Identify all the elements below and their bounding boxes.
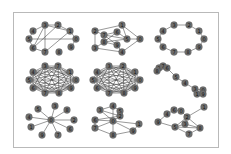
graph-5: 3210987654 — [90, 63, 144, 97]
node-label: 1 — [137, 121, 140, 127]
node-label: 0 — [179, 108, 182, 114]
node-label: 8 — [65, 107, 68, 113]
graph-4: 3710987654 — [26, 63, 80, 97]
node-label: 9 — [133, 85, 136, 91]
node-label: 5 — [91, 77, 94, 83]
node-label: 0 — [111, 118, 114, 124]
graph-edge — [113, 121, 139, 124]
node-label: 6 — [115, 29, 118, 35]
node-label: 6 — [172, 107, 175, 113]
node-label: 1 — [120, 22, 123, 28]
node-label: 3 — [43, 22, 46, 28]
node-label: 2 — [56, 22, 59, 28]
graph-9: 1604239587 — [155, 104, 208, 138]
node-label: 0 — [74, 36, 77, 42]
node-label: 9 — [40, 132, 43, 138]
node-label: 7 — [102, 32, 105, 38]
node-label: 5 — [174, 74, 177, 80]
graph-6: 2768543019 — [154, 63, 207, 98]
node-label: 6 — [68, 126, 71, 132]
node-label: 7 — [172, 49, 175, 55]
node-label: 7 — [56, 63, 59, 69]
node-label: 1 — [197, 28, 200, 34]
node-label: 6 — [93, 117, 96, 123]
node-label: 8 — [57, 49, 60, 55]
node-label: 4 — [161, 28, 164, 34]
node-label: 4 — [95, 69, 98, 75]
node-label: 5 — [173, 124, 176, 130]
node-label: 1 — [68, 28, 71, 34]
node-label: 1 — [29, 124, 32, 130]
node-label: 0 — [138, 36, 141, 42]
node-label: 4 — [183, 80, 186, 86]
graph-edge — [123, 66, 124, 93]
node-label: 4 — [111, 103, 114, 109]
node-label: 5 — [27, 36, 30, 42]
node-label: 4 — [31, 28, 34, 34]
node-label: 9 — [201, 91, 204, 97]
graph-edge — [95, 48, 122, 52]
node-label: 7 — [56, 132, 59, 138]
node-label: 2 — [121, 63, 124, 69]
node-label: 7 — [43, 90, 46, 96]
node-label: 2 — [93, 28, 96, 34]
graph-3: 3210987654 — [155, 22, 208, 56]
node-label: 5 — [125, 36, 128, 42]
graph-edge — [58, 66, 59, 93]
node-label: 4 — [120, 49, 123, 55]
node-label: 8 — [57, 90, 60, 96]
node-label: 8 — [198, 125, 201, 131]
node-label: 3 — [53, 103, 56, 109]
node-label: 3 — [183, 121, 186, 127]
node-label: 2 — [187, 22, 190, 28]
node-label: 8 — [122, 90, 125, 96]
node-label: 8 — [186, 49, 189, 55]
node-label: 0 — [138, 77, 141, 83]
node-label: 9 — [115, 42, 118, 48]
node-label: 2 — [118, 113, 121, 119]
node-label: 1 — [68, 69, 71, 75]
node-label: 6 — [165, 65, 168, 71]
node-label: 3 — [98, 107, 101, 113]
node-label: 6 — [95, 85, 98, 91]
node-label: 5 — [27, 77, 30, 83]
node-label: 3 — [43, 63, 46, 69]
node-label: 7 — [107, 90, 110, 96]
node-label: 6 — [31, 45, 34, 51]
graph-2: 1267508934 — [92, 22, 144, 56]
node-label: 2 — [72, 117, 75, 123]
node-label: 7 — [93, 125, 96, 131]
node-label: 3 — [93, 45, 96, 51]
node-label: 2 — [185, 114, 188, 120]
node-label: 3 — [172, 22, 175, 28]
node-label: 5 — [156, 36, 159, 42]
node-label: 8 — [111, 132, 114, 138]
node-label: 5 — [36, 106, 39, 112]
node-label: 1 — [195, 91, 198, 97]
node-label: 1 — [133, 69, 136, 75]
graph-7: 0358421697 — [26, 103, 78, 139]
network-graphs-canvas: 3210987654126750893432109876543710987654… — [0, 0, 231, 154]
node-label: 7 — [187, 131, 190, 137]
node-label: 4 — [27, 114, 30, 120]
graph-1: 3210987654 — [26, 22, 80, 56]
node-label: 0 — [49, 117, 52, 123]
node-label: 7 — [43, 49, 46, 55]
node-label: 1 — [202, 104, 205, 110]
node-label: 9 — [131, 128, 134, 134]
node-label: 4 — [165, 111, 168, 117]
node-label: 9 — [156, 119, 159, 125]
node-label: 4 — [31, 69, 34, 75]
node-label: 9 — [197, 44, 200, 50]
node-label: 6 — [161, 44, 164, 50]
node-label: 0 — [202, 36, 205, 42]
node-label: 9 — [69, 44, 72, 50]
node-label: 3 — [107, 63, 110, 69]
node-label: 0 — [74, 77, 77, 83]
graph-8: 4352601789 — [92, 103, 143, 139]
node-label: 9 — [69, 85, 72, 91]
node-label: 6 — [31, 85, 34, 91]
node-label: 8 — [155, 68, 158, 74]
node-label: 8 — [102, 39, 105, 45]
